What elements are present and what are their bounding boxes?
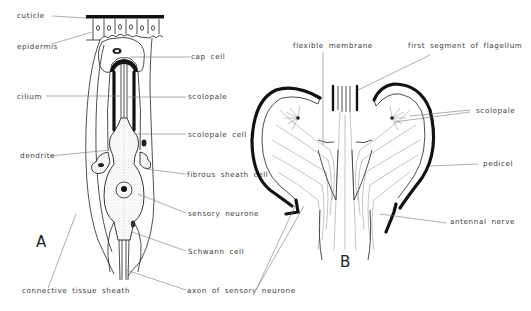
- panel-b-pedicel: B: [252, 84, 434, 271]
- label-cap-cell: cap cell: [191, 52, 225, 61]
- label-schwann-cell: Schwann cell: [188, 247, 244, 256]
- label-connective-tissue-sheath: connective tissue sheath: [22, 286, 130, 295]
- label-first-segment-of-flagellum: first segment of flagellum: [408, 41, 522, 50]
- label-epidermis: epidermis: [17, 42, 58, 51]
- cuticle-layer: [86, 15, 164, 19]
- panel-a-scolopidium: A: [36, 15, 164, 280]
- diagram-figure: A cuticle epidermis cilium dendrite conn…: [0, 0, 531, 311]
- panel-label-b: B: [340, 253, 350, 271]
- label-antennal-nerve: antennal nerve: [450, 217, 515, 226]
- fibrous-sheath-cell-right: [140, 152, 151, 169]
- johnstons-organ-fibres: [272, 106, 420, 250]
- schwann-cell-nucleus: [131, 221, 135, 228]
- label-scolopale-cell: scolopale cell: [188, 130, 247, 139]
- axon-shape: [119, 240, 129, 280]
- panel-label-a: A: [36, 233, 47, 251]
- label-flexible-membrane: flexible membrane: [293, 41, 373, 50]
- epidermis-layer: [86, 19, 163, 40]
- label-sensory-neurone: sensory neurone: [188, 209, 259, 218]
- label-scolopale-b: scolopale: [476, 106, 515, 115]
- fibrous-sheath-cell-left: [92, 152, 111, 174]
- label-pedicel: pedicel: [483, 159, 513, 168]
- dendrite-shape: [104, 118, 144, 240]
- label-axon-of-sensory-neurone: axon of sensory neurone: [187, 286, 296, 295]
- label-scolopale-a: scolopale: [188, 92, 227, 101]
- label-dendrite: dendrite: [20, 151, 55, 160]
- scolopale-cell-nucleus: [142, 140, 147, 147]
- label-cuticle: cuticle: [17, 11, 45, 20]
- cilium-shape: [121, 60, 127, 118]
- socket-hook-right: [386, 204, 396, 232]
- label-cilium: cilium: [17, 92, 42, 101]
- flagellum-first-segment: [333, 86, 357, 110]
